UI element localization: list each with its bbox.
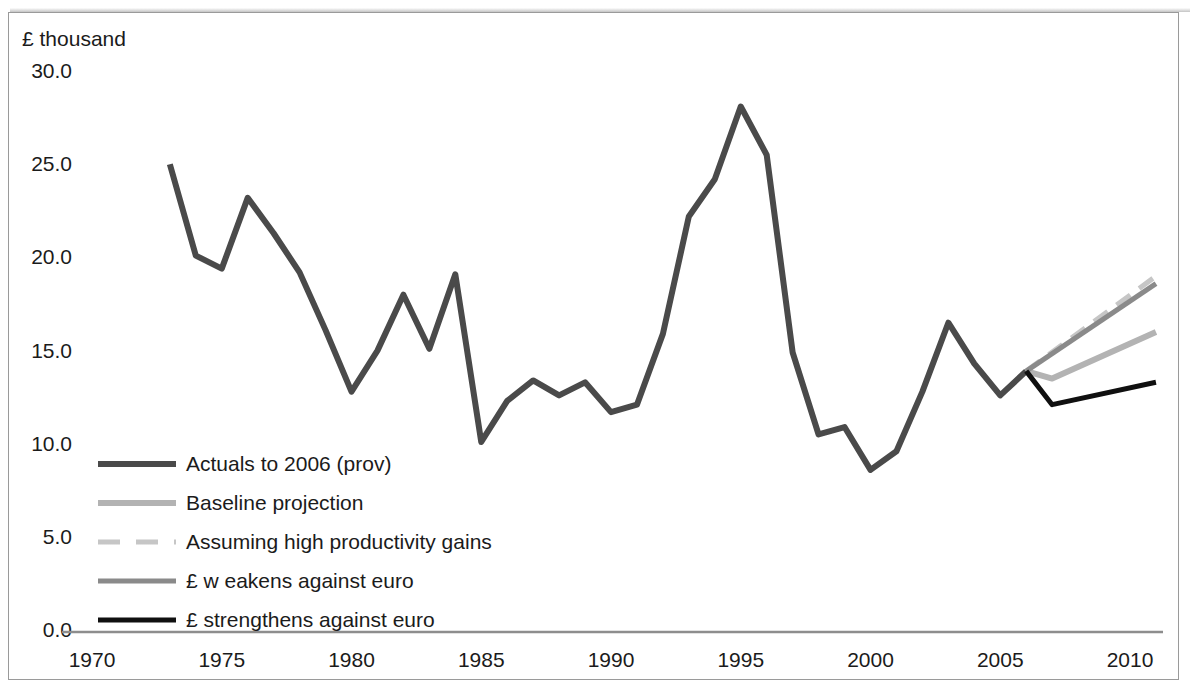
legend-item-label: Actuals to 2006 (prov) — [186, 452, 391, 476]
legend-swatch-icon — [98, 457, 176, 471]
legend-item: £ strengthens against euro — [98, 600, 492, 639]
legend-swatch-icon — [98, 613, 176, 627]
legend-item: Actuals to 2006 (prov) — [98, 444, 492, 483]
legend-swatch-icon — [98, 574, 176, 588]
legend-swatch-icon — [98, 535, 176, 549]
legend-item: £ w eakens against euro — [98, 561, 492, 600]
legend-item: Assuming high productivity gains — [98, 522, 492, 561]
chart-legend: Actuals to 2006 (prov)Baseline projectio… — [98, 444, 492, 639]
legend-swatch-icon — [98, 496, 176, 510]
legend-item: Baseline projection — [98, 483, 492, 522]
legend-item-label: £ w eakens against euro — [186, 569, 414, 593]
legend-item-label: Assuming high productivity gains — [186, 530, 492, 554]
legend-item-label: £ strengthens against euro — [186, 608, 435, 632]
chart-page: £ thousand 30.025.020.015.010.05.00.0 19… — [0, 0, 1199, 692]
legend-item-label: Baseline projection — [186, 491, 363, 515]
series-line — [170, 107, 1026, 470]
